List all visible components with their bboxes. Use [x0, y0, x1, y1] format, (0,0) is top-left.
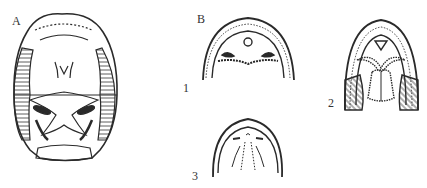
subfigure-2-drawing [345, 20, 418, 110]
figure-drawing [0, 0, 427, 188]
subfigure-1-drawing [203, 18, 294, 80]
subfigure-3-drawing [213, 119, 282, 177]
panel-a-drawing [14, 14, 117, 161]
